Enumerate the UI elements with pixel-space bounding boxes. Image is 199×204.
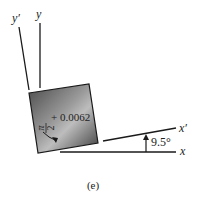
y-prime-axis bbox=[19, 27, 29, 90]
rotation-angle-label: 9.5° bbox=[151, 135, 171, 149]
shear-angle-term: + 0.0062 bbox=[51, 111, 90, 123]
y-axis-label: y bbox=[35, 7, 42, 21]
y-prime-axis-label: y′ bbox=[11, 11, 20, 25]
x-prime-axis-label: x′ bbox=[178, 121, 187, 135]
strain-element-diagram: π 2 + 0.0062 9.5° y y′ x′ x (e) bbox=[0, 0, 199, 204]
svg-text:2: 2 bbox=[45, 126, 56, 131]
figure-caption: (e) bbox=[87, 179, 100, 192]
rotation-arrowhead-icon bbox=[143, 134, 149, 140]
x-axis-label: x bbox=[179, 144, 186, 158]
